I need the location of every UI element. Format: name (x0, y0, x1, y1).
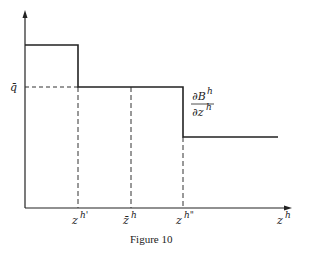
figure-caption: Figure 10 (130, 233, 173, 245)
tick-label-zh-doubleprime: z h" (175, 210, 194, 227)
x-axis-label: z h (276, 210, 291, 227)
svg-text:∂z: ∂z (192, 106, 204, 119)
qbar-label: q̄ (10, 81, 17, 94)
svg-text:h: h (206, 102, 212, 112)
figure-canvas: q̄ ∂B h ∂z h z h' z̄ h z h" z h Figure 1… (0, 0, 313, 253)
svg-text:h: h (207, 86, 213, 96)
svg-text:h': h' (80, 210, 88, 220)
svg-text:z: z (175, 214, 182, 227)
tick-label-zh-prime: z h' (71, 210, 88, 227)
svg-text:z̄: z̄ (122, 214, 129, 227)
svg-text:h: h (285, 210, 291, 220)
curve-label: ∂B h ∂z h (191, 86, 214, 119)
svg-text:∂B: ∂B (192, 90, 206, 103)
svg-text:h: h (131, 210, 137, 220)
svg-text:h": h" (184, 210, 194, 220)
tick-label-zbar: z̄ h (122, 210, 137, 227)
svg-text:z: z (71, 214, 78, 227)
y-axis-arrow-icon (23, 10, 28, 18)
svg-text:z: z (276, 214, 283, 227)
marginal-benefit-step-curve (25, 45, 278, 137)
